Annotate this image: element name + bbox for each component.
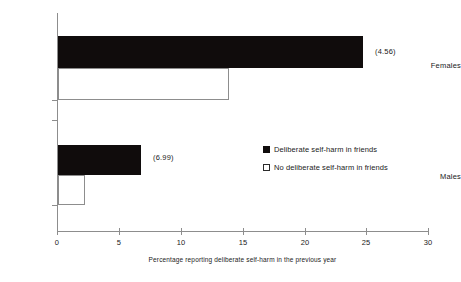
y-axis-tick-males <box>52 205 58 206</box>
bar-males-deliberate-self-harm <box>58 145 141 175</box>
x-axis-label-5: 5 <box>117 238 121 247</box>
x-axis-title: Percentage reporting deliberate self-har… <box>57 256 428 263</box>
hollow-square-icon <box>263 164 270 171</box>
bar-females-no-deliberate-self-harm <box>58 68 229 100</box>
annotation-females: (4.56) <box>375 47 396 56</box>
x-axis-label-0: 0 <box>55 238 59 247</box>
bar-males-no-deliberate-self-harm <box>58 175 85 205</box>
filled-square-icon <box>263 146 270 153</box>
bar-females-deliberate-self-harm <box>58 36 363 68</box>
annotation-males: (6.99) <box>153 153 174 162</box>
bar-chart: 0 5 10 15 20 25 30 Females Males (4.56) … <box>0 0 461 282</box>
legend-item-deliberate-self-harm: Deliberate self-harm in friends <box>263 145 388 154</box>
chart-legend: Deliberate self-harm in friends No delib… <box>263 145 388 181</box>
x-axis-tick-10 <box>181 228 182 235</box>
x-axis-label-15: 15 <box>239 238 248 247</box>
category-label-females: Females <box>413 61 461 70</box>
x-axis-label-10: 10 <box>177 238 186 247</box>
x-axis-tick-5 <box>119 228 120 235</box>
legend-item-no-deliberate-self-harm: No deliberate self-harm in friends <box>263 163 388 172</box>
x-axis-tick-30 <box>428 228 429 235</box>
x-axis-label-20: 20 <box>301 238 310 247</box>
legend-label-deliberate-self-harm: Deliberate self-harm in friends <box>274 145 377 154</box>
x-axis-tick-25 <box>366 228 367 235</box>
y-axis-tick-females <box>52 100 58 101</box>
x-axis-tick-20 <box>305 228 306 235</box>
y-axis-tick-separator <box>52 120 58 121</box>
x-axis-tick-0 <box>57 228 58 235</box>
x-axis-tick-15 <box>243 228 244 235</box>
x-axis-label-30: 30 <box>424 238 433 247</box>
category-label-males: Males <box>413 172 461 181</box>
x-axis-label-25: 25 <box>362 238 371 247</box>
legend-label-no-deliberate-self-harm: No deliberate self-harm in friends <box>274 163 388 172</box>
